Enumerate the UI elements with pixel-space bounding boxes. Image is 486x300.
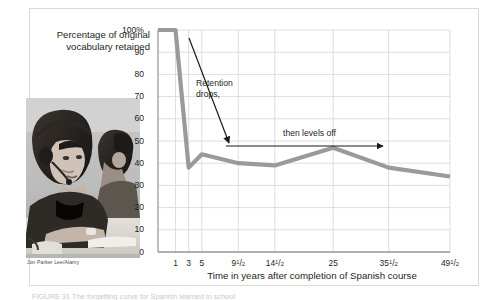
retention-line-chart bbox=[150, 18, 460, 286]
x-tick-label: 491/2 bbox=[430, 258, 470, 268]
y-tick-label: 90 bbox=[110, 47, 144, 57]
annotation-retention-drops-line2: drops, bbox=[196, 89, 233, 100]
y-tick-label: 40 bbox=[110, 158, 144, 168]
y-tick-label: 70 bbox=[110, 91, 144, 101]
y-tick-label: 20 bbox=[110, 202, 144, 212]
x-axis-title: Time in years after completion of Spanis… bbox=[162, 270, 462, 281]
y-tick-label: 50 bbox=[110, 136, 144, 146]
x-tick-label: 25 bbox=[313, 258, 353, 268]
y-tick-label: 30 bbox=[110, 180, 144, 190]
x-tick-label: 91/2 bbox=[218, 258, 258, 268]
y-tick-label: 0 bbox=[110, 247, 144, 257]
y-tick-label: 10 bbox=[110, 224, 144, 234]
y-tick-label: 100% bbox=[106, 25, 144, 35]
annotation-levels-off: then levels off bbox=[283, 128, 336, 139]
y-tick-label: 60 bbox=[110, 113, 144, 123]
x-tick-label: 141/2 bbox=[255, 258, 295, 268]
figure-caption: FIGURE 31 The forgetting curve for Spani… bbox=[32, 292, 472, 300]
annotation-retention-drops-line1: Retention bbox=[196, 78, 233, 89]
y-tick-label: 80 bbox=[110, 69, 144, 79]
photo-credit: Jon Parker Lee/Alamy bbox=[27, 259, 79, 265]
figure-container: Percentage of original vocabulary retain… bbox=[0, 0, 486, 300]
x-tick-label: 5 bbox=[182, 258, 222, 268]
x-tick-label: 351/2 bbox=[369, 258, 409, 268]
annotation-retention-drops: Retention drops, bbox=[196, 78, 233, 100]
